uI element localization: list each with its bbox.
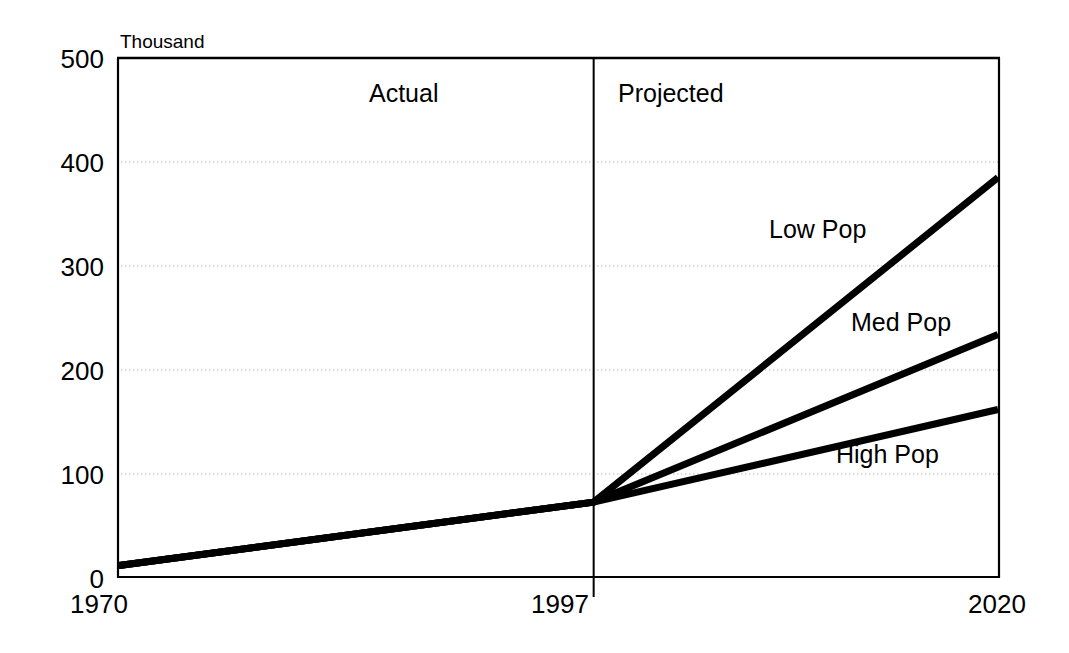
y-tick-label-400: 400	[26, 150, 104, 176]
y-tick-label-100: 100	[26, 462, 104, 488]
x-tick-label-2020: 2020	[968, 591, 1026, 617]
series-label-low-pop: Low Pop	[769, 217, 866, 242]
annotation-actual: Actual	[369, 81, 438, 106]
y-tick-label-300: 300	[26, 254, 104, 280]
chart-container: Thousand 500 400 300 200 100 0 1970 1997…	[0, 0, 1069, 653]
y-tick-label-500: 500	[26, 46, 104, 72]
series-label-high-pop: High Pop	[836, 442, 939, 467]
annotation-projected: Projected	[618, 81, 724, 106]
x-tick-label-1997: 1997	[531, 591, 589, 617]
series-line-high-pop	[119, 410, 998, 566]
y-axis-unit-label: Thousand	[120, 32, 205, 51]
series-label-med-pop: Med Pop	[851, 310, 951, 335]
x-tick-label-1970: 1970	[70, 591, 128, 617]
y-tick-label-200: 200	[26, 358, 104, 384]
